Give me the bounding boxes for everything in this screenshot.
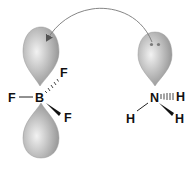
electron-donation-arrow bbox=[47, 8, 152, 42]
atom-label-hydrogen-right: H bbox=[176, 90, 185, 104]
nitrogen-lone-pair-orbital-lobe bbox=[138, 32, 172, 86]
lewis-acid-base-diagram: B F F F N H H H bbox=[0, 0, 195, 171]
lone-pair-dot bbox=[150, 43, 153, 46]
atom-label-boron: B bbox=[35, 91, 44, 105]
atom-label-hydrogen-lower-right: H bbox=[175, 112, 184, 126]
atom-label-fluorine-left: F bbox=[8, 91, 16, 105]
atom-label-fluorine-upper-right: F bbox=[60, 66, 68, 80]
boron-upper-orbital-lobe bbox=[23, 27, 59, 86]
n-h-hashed-bond bbox=[161, 93, 173, 100]
atom-label-fluorine-lower-right: F bbox=[64, 111, 72, 125]
atom-label-nitrogen: N bbox=[150, 91, 159, 105]
lone-pair-dot bbox=[157, 43, 160, 46]
diagram-canvas: B F F F N H H H bbox=[0, 0, 195, 171]
b-f-hashed-bond bbox=[45, 79, 59, 93]
n-h-wedge-bond bbox=[159, 103, 174, 116]
n-h-lower-left-bond bbox=[137, 103, 148, 111]
atom-label-hydrogen-lower-left: H bbox=[126, 112, 135, 126]
boron-lower-orbital-lobe bbox=[23, 103, 59, 158]
